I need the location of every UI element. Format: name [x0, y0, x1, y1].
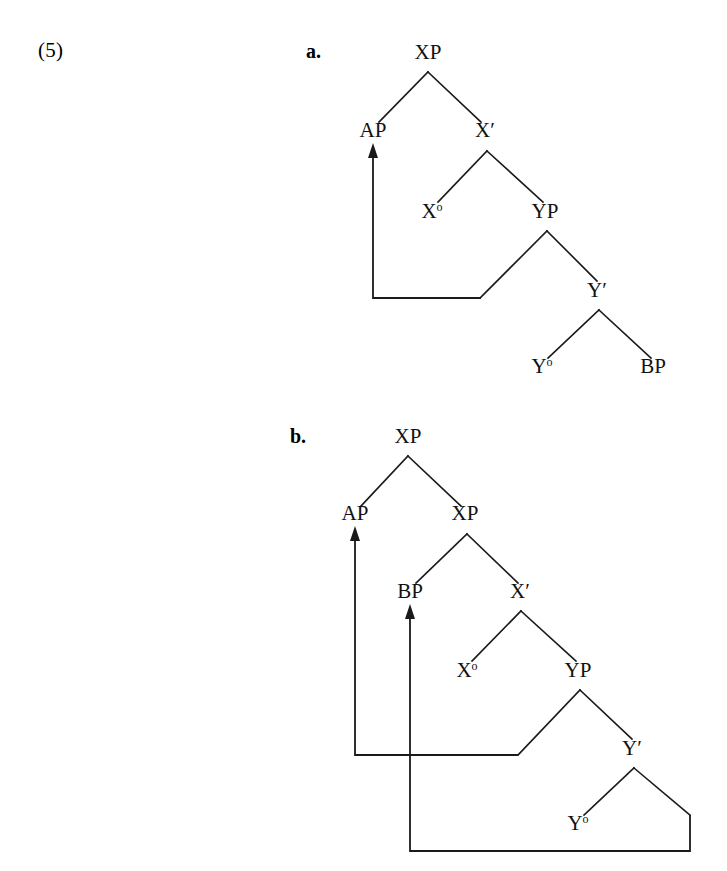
node-tree-b-yp: YP — [565, 658, 592, 682]
node-tree-b-y-bar: Y′ — [622, 736, 642, 760]
branch-xbar-to-yp — [521, 611, 576, 661]
branch-xbar-to-xzero — [472, 611, 521, 661]
branch-inner-xp-to-bp — [416, 534, 467, 583]
node-tree-b-inner-xp: XP — [452, 501, 479, 525]
syntax-tree-b: XP AP XP BP X′ Xo YP Y′ Yo — [0, 0, 727, 871]
page-canvas: (5) a. b. XP AP X′ Xo YP Y′ Yo BP — [0, 0, 727, 871]
movement-arrow-bp-from-y-bar-complement — [410, 615, 690, 851]
branch-yp-to-ybar — [580, 690, 632, 739]
branch-xp-to-inner-xp — [408, 456, 461, 506]
movement-arrowhead-bp — [405, 604, 415, 619]
branch-inner-xp-to-xbar — [467, 534, 518, 583]
node-tree-b-bp: BP — [397, 579, 423, 603]
branch-yp-to-spec-trace — [518, 690, 580, 755]
branch-ybar-to-complement-trace — [634, 768, 690, 815]
node-tree-b-root-xp: XP — [395, 424, 422, 448]
node-tree-b-y-zero: Yo — [567, 811, 588, 835]
branch-ybar-to-yzero — [584, 768, 634, 815]
branch-xp-to-ap — [361, 456, 408, 506]
movement-arrowhead-ap — [350, 526, 360, 541]
node-tree-b-x-bar: X′ — [510, 579, 530, 603]
node-tree-b-x-zero: Xo — [456, 658, 477, 682]
movement-arrow-ap-from-yp-spec — [355, 537, 518, 755]
node-tree-b-ap: AP — [342, 501, 369, 525]
